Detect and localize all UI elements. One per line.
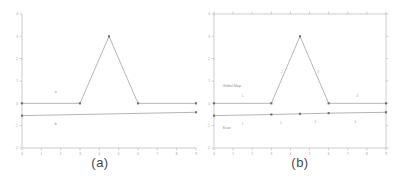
panel-caption-b: (b) (200, 155, 400, 170)
y-tick-label: 3 (16, 35, 18, 39)
point-annotation: 4 (355, 120, 357, 124)
data-point-marker (195, 102, 197, 104)
y-tick-label: 0 (16, 102, 18, 106)
data-point-marker (270, 113, 272, 115)
series-label: a (55, 90, 57, 94)
data-point-marker (213, 102, 215, 104)
chart-svg-a: 0123456789 -2-101234 ab (0, 0, 200, 160)
series-group-b: Global Map1234Scan1234 (213, 35, 387, 130)
data-point-marker (299, 35, 301, 37)
y-tick-label: 2 (16, 57, 18, 61)
data-point-marker (79, 102, 81, 104)
data-point-marker (385, 102, 387, 104)
point-annotation: 4 (356, 94, 358, 98)
panel-b: 0123456789 -2-101234 Global Map1234Scan1… (200, 0, 400, 187)
panel-caption-a: (a) (0, 155, 200, 170)
y-tick-label: -1 (15, 124, 18, 128)
y-tick-label: 1 (208, 79, 210, 83)
plot-area-b: 0123456789 -2-101234 Global Map1234Scan1… (200, 0, 400, 160)
figure-two-panel: 0123456789 -2-101234 ab (a) 0123456789 -… (0, 0, 400, 187)
plot-frame-b (214, 14, 386, 148)
panel-a: 0123456789 -2-101234 ab (a) (0, 0, 200, 187)
point-annotation: 2 (280, 121, 282, 125)
y-ticks-a: -2-101234 (15, 12, 22, 150)
point-annotation: 1 (242, 94, 244, 98)
y-tick-label: 4 (208, 12, 210, 16)
data-point-marker (328, 112, 330, 114)
axes-a: 0123456789 -2-101234 (15, 12, 197, 156)
point-annotation: 3 (314, 120, 316, 124)
chart-svg-b: 0123456789 -2-101234 Global Map1234Scan1… (200, 0, 400, 160)
series-group-a: ab (21, 35, 197, 125)
point-annotation: 2 (281, 70, 283, 74)
point-annotation: 3 (317, 70, 319, 74)
series-label: b (55, 122, 57, 126)
plot-area-a: 0123456789 -2-101234 ab (0, 0, 200, 160)
data-point-marker (270, 102, 272, 104)
data-point-marker (213, 115, 215, 117)
y-tick-label: -2 (207, 146, 210, 150)
y-tick-label: -2 (15, 146, 18, 150)
series-line (22, 112, 196, 115)
y-tick-label: 0 (208, 102, 210, 106)
point-annotation: 1 (242, 122, 244, 126)
y-tick-label: 4 (16, 12, 18, 16)
data-point-marker (21, 102, 23, 104)
series-label: Global Map (223, 84, 241, 88)
data-point-marker (195, 111, 197, 113)
y-tick-label: 1 (16, 79, 18, 83)
y-tick-label: -1 (207, 124, 210, 128)
series-line (22, 36, 196, 103)
data-point-marker (137, 102, 139, 104)
series-line (214, 36, 386, 103)
y-tick-label: 2 (208, 57, 210, 61)
data-point-marker (108, 35, 110, 37)
series-label: Scan (223, 126, 231, 130)
data-point-marker (299, 113, 301, 115)
y-ticks-b: -2-101234 (207, 12, 388, 150)
data-point-marker (21, 115, 23, 117)
data-point-marker (385, 111, 387, 113)
y-tick-label: 3 (208, 35, 210, 39)
data-point-marker (328, 102, 330, 104)
